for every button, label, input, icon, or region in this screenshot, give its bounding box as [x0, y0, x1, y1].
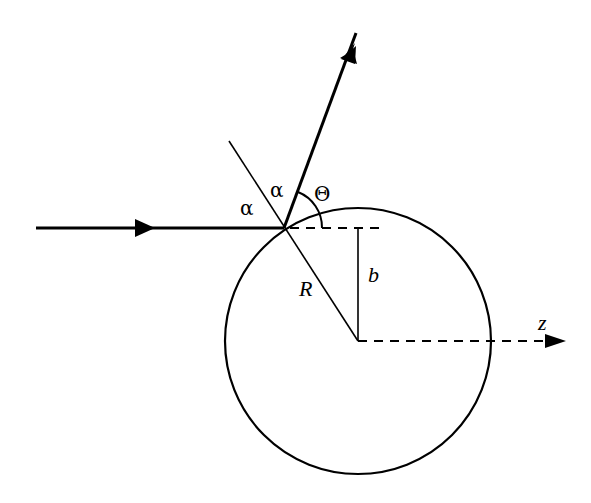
diagram-graphic	[0, 0, 591, 503]
reflected-arrowhead-fill-icon	[341, 46, 356, 64]
incident-arrowhead-icon	[135, 219, 155, 237]
alpha-reflected-label: α	[270, 180, 284, 200]
radius-label: R	[299, 278, 312, 300]
surface-normal-line	[229, 141, 358, 341]
scattering-diagram: α α Θ R b z	[0, 0, 591, 503]
impact-parameter-label: b	[368, 264, 379, 286]
theta-label: Θ	[314, 184, 330, 204]
z-axis-label: z	[538, 312, 547, 334]
z-axis-arrowhead-icon	[545, 334, 566, 348]
alpha-incident-label: α	[240, 198, 254, 218]
